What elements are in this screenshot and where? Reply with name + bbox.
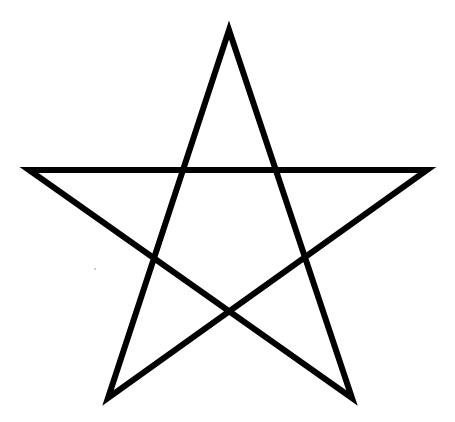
- pentagram-star-icon: [0, 0, 455, 422]
- stray-speck: [94, 268, 96, 270]
- pentagram-outline: [29, 30, 427, 398]
- image-canvas: [0, 0, 455, 422]
